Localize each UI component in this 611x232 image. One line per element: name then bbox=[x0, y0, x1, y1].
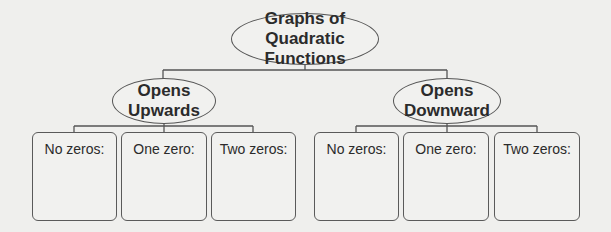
branch-label-line-2: Downward bbox=[404, 101, 490, 121]
root-node-graphs-of-quadratic-functions: Graphs of Quadratic Functions bbox=[231, 13, 379, 65]
leaf-label: Two zeros: bbox=[503, 141, 571, 157]
leaf-box-upwards-two-zeros[interactable]: Two zeros: bbox=[211, 132, 296, 221]
branch-node-opens-downward: Opens Downward bbox=[393, 78, 501, 124]
leaf-box-upwards-no-zeros[interactable]: No zeros: bbox=[32, 132, 117, 221]
leaf-label: No zeros: bbox=[327, 141, 387, 157]
root-label-line-1: Graphs of Quadratic bbox=[232, 9, 378, 49]
root-label-line-2: Functions bbox=[264, 49, 345, 69]
branch-label-line-2: Upwards bbox=[128, 101, 200, 121]
leaf-box-upwards-one-zero[interactable]: One zero: bbox=[121, 132, 207, 221]
leaf-label: No zeros: bbox=[45, 141, 105, 157]
leaf-box-downward-one-zero[interactable]: One zero: bbox=[403, 132, 489, 221]
branch-label-line-1: Opens bbox=[421, 81, 474, 101]
leaf-label: Two zeros: bbox=[220, 141, 288, 157]
branch-node-opens-upwards: Opens Upwards bbox=[112, 78, 216, 124]
leaf-label: One zero: bbox=[415, 141, 476, 157]
leaf-box-downward-two-zeros[interactable]: Two zeros: bbox=[494, 132, 580, 221]
leaf-box-downward-no-zeros[interactable]: No zeros: bbox=[314, 132, 399, 221]
leaf-label: One zero: bbox=[133, 141, 194, 157]
branch-label-line-1: Opens bbox=[138, 81, 191, 101]
